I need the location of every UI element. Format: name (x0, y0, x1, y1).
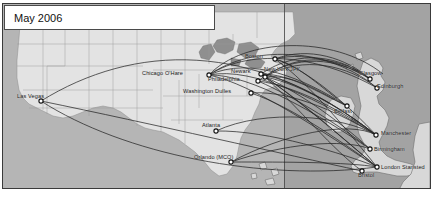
airport-marker[interactable] (375, 165, 379, 169)
airport-label: Belfast (334, 108, 352, 114)
airport-label: London Stansted (381, 164, 425, 170)
map-frame: Las VegasChicago O'HareWashington Dulles… (2, 3, 431, 189)
airport-marker[interactable] (214, 129, 218, 133)
airport-label: Edinburgh (377, 83, 403, 89)
airport-label: Philadelphia (208, 76, 240, 82)
route-map-figure: Las VegasChicago O'HareWashington Dulles… (0, 0, 433, 200)
airport-label: Las Vegas (17, 93, 44, 99)
airport-marker[interactable] (229, 160, 233, 164)
airport-nodes-layer (3, 4, 431, 189)
page-title: May 2006 (5, 12, 62, 24)
airport-marker[interactable] (263, 75, 267, 79)
airport-label: Manchester (381, 130, 411, 136)
airport-marker[interactable] (39, 99, 43, 103)
airport-label: New York JFK (264, 66, 300, 72)
airport-label: Orlando (MCO) (194, 154, 234, 160)
airport-label: Bristol (358, 172, 374, 178)
airport-marker[interactable] (259, 72, 263, 76)
airport-marker[interactable] (368, 77, 372, 81)
airport-label: Boston (245, 53, 263, 59)
airport-label: Birmingham (374, 146, 405, 152)
airport-label: Chicago O'Hare (142, 70, 183, 76)
airport-label: Washington Dulles (183, 88, 231, 94)
airport-marker[interactable] (249, 91, 253, 95)
airport-marker[interactable] (256, 79, 260, 83)
airport-label: Atlanta (202, 122, 220, 128)
airport-marker[interactable] (374, 133, 378, 137)
airport-label: Glasgow (359, 70, 381, 76)
title-card: May 2006 (4, 5, 215, 30)
airport-label: Newark (231, 68, 251, 74)
airport-marker[interactable] (368, 147, 372, 151)
airport-marker[interactable] (273, 57, 277, 61)
